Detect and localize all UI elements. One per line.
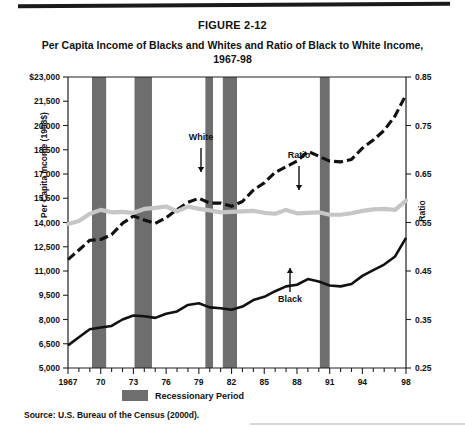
y-axis-tick-label-right: 0.85 bbox=[415, 72, 455, 82]
y-axis-tick-label-right: 0.45 bbox=[415, 266, 455, 276]
x-axis-tick-label: 76 bbox=[161, 377, 170, 387]
y-axis-tick-label-right: 0.55 bbox=[415, 218, 455, 228]
recession-band bbox=[223, 77, 237, 368]
x-axis-tick-label: 94 bbox=[358, 377, 367, 387]
source-note: Source: U.S. Bureau of the Census (2000d… bbox=[24, 410, 199, 420]
y-axis-tick-label-left: 20,000 bbox=[8, 121, 60, 131]
x-axis-tick-label: 79 bbox=[194, 377, 203, 387]
y-axis-tick-label-left: 17,000 bbox=[8, 169, 60, 179]
black-series-label: Black bbox=[278, 294, 302, 304]
x-axis-tick-label: 91 bbox=[325, 377, 334, 387]
x-axis-tick-label: 82 bbox=[227, 377, 236, 387]
recession-band bbox=[320, 77, 330, 368]
y-axis-tick-label-right: 0.75 bbox=[415, 121, 455, 131]
y-axis-tick-label-left: 21,500 bbox=[8, 96, 60, 106]
x-axis-tick-label: 88 bbox=[292, 377, 301, 387]
y-axis-tick-label-left: 12,500 bbox=[8, 242, 60, 252]
y-axis-label-right: Ratio bbox=[417, 181, 427, 241]
x-axis-tick-label: 85 bbox=[260, 377, 269, 387]
y-axis-tick-label-left: 15,500 bbox=[8, 193, 60, 203]
x-axis-tick-label: 73 bbox=[129, 377, 138, 387]
y-axis-tick-label-left: 18,500 bbox=[8, 145, 60, 155]
white-series-label: White bbox=[189, 132, 214, 142]
chart-svg bbox=[0, 0, 465, 427]
y-axis-tick-label-left: 5,000 bbox=[8, 363, 60, 373]
x-axis-tick-label: 70 bbox=[96, 377, 105, 387]
annotation-arrowhead bbox=[287, 268, 293, 273]
y-axis-tick-label-left: 11,000 bbox=[8, 266, 60, 276]
y-axis-tick-label-left: $23,000 bbox=[8, 72, 60, 82]
y-axis-tick-label-right: 0.25 bbox=[415, 363, 455, 373]
y-axis-tick-label-right: 0.35 bbox=[415, 315, 455, 325]
annotation-arrowhead bbox=[296, 185, 302, 190]
y-axis-tick-label-left: 8,000 bbox=[8, 315, 60, 325]
y-axis-tick-label-left: 6,500 bbox=[8, 339, 60, 349]
x-axis-tick-label: 98 bbox=[401, 377, 410, 387]
x-axis-tick-label: 1967 bbox=[59, 377, 78, 387]
legend-recession-label: Recessionary Period bbox=[155, 391, 244, 401]
legend: Recessionary Period bbox=[122, 390, 244, 401]
recession-band bbox=[205, 77, 213, 368]
chart-area: Per Capita Income (1998$) Ratio $23,0002… bbox=[0, 0, 465, 427]
annotation-arrowhead bbox=[198, 167, 204, 172]
recession-swatch-icon bbox=[122, 390, 148, 401]
y-axis-tick-label-left: 14,000 bbox=[8, 218, 60, 228]
page-bottom-rule bbox=[250, 423, 465, 425]
y-axis-tick-label-left: 9,500 bbox=[8, 290, 60, 300]
y-axis-tick-label-right: 0.65 bbox=[415, 169, 455, 179]
ratio-series-label: Ratio bbox=[288, 150, 311, 160]
recession-band bbox=[92, 77, 106, 368]
